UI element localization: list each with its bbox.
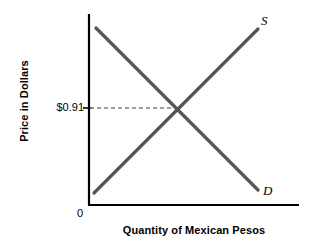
supply-demand-chart: Price in Dollars Quantity of Mexican Pes…: [0, 0, 325, 243]
supply-curve-label: S: [261, 13, 268, 29]
demand-curve-label: D: [263, 183, 272, 199]
x-axis-title: Quantity of Mexican Pesos: [88, 224, 300, 236]
chart-plot-area: [0, 0, 325, 243]
y-axis-title: Price in Dollars: [18, 41, 30, 161]
y-axis-tick-label-equilibrium-price: $0.91: [40, 101, 84, 113]
origin-label: 0: [77, 207, 83, 219]
supply-curve: [94, 29, 258, 193]
